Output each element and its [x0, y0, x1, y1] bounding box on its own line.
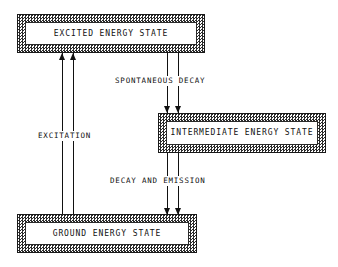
ground-energy-state-inner: GROUND ENERGY STATE	[25, 222, 189, 245]
spontaneous-decay-arrowhead-2	[175, 106, 181, 113]
excitation-label: EXCITATION	[36, 131, 93, 141]
decay-and-emission-label: DECAY AND EMISSION	[108, 176, 208, 186]
spontaneous-decay-arrowhead-1	[164, 106, 170, 113]
excited-energy-state-label: EXCITED ENERGY STATE	[54, 30, 168, 38]
excited-energy-state-box: EXCITED ENERGY STATE	[17, 14, 205, 53]
spontaneous-decay-label: SPONTANEOUS DECAY	[113, 76, 207, 86]
intermediate-energy-state-label: INTERMEDIATE ENERGY STATE	[171, 129, 314, 137]
excitation-arrowhead-1	[59, 53, 65, 60]
excitation-arrowhead-2	[70, 53, 76, 60]
intermediate-energy-state-inner: INTERMEDIATE ENERGY STATE	[166, 121, 318, 145]
excited-energy-state-inner: EXCITED ENERGY STATE	[25, 22, 197, 45]
ground-energy-state-box: GROUND ENERGY STATE	[17, 214, 197, 253]
ground-energy-state-label: GROUND ENERGY STATE	[53, 230, 162, 238]
energy-state-diagram: EXCITATION SPONTANEOUS DECAY DECAY AND E…	[0, 0, 338, 267]
intermediate-energy-state-box: INTERMEDIATE ENERGY STATE	[158, 113, 326, 153]
